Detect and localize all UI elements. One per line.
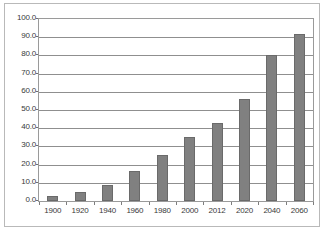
y-axis-tick-label: 100.0 xyxy=(17,14,36,22)
x-axis-tick-label: 2000 xyxy=(176,206,203,215)
bar[interactable] xyxy=(75,192,86,201)
x-axis-tick-label: 1940 xyxy=(94,206,121,215)
x-axis-tick-label: 2012 xyxy=(203,206,230,215)
bar[interactable] xyxy=(184,137,195,201)
x-axis-tick-mark xyxy=(176,202,177,205)
bar[interactable] xyxy=(239,99,250,201)
bar-slot xyxy=(176,19,203,201)
bar-slot xyxy=(121,19,148,201)
x-axis-tick-mark xyxy=(66,202,67,205)
x-axis-tick-mark xyxy=(231,202,232,205)
bar[interactable] xyxy=(212,123,223,201)
x-axis-tick-label: 2020 xyxy=(231,206,258,215)
y-axis-tick-label: 50.0 xyxy=(21,105,36,113)
bar-slot xyxy=(258,19,285,201)
x-axis: 1900192019401960198020002012202020402060 xyxy=(39,204,313,218)
y-axis: 100.090.080.070.060.050.040.030.020.010.… xyxy=(5,18,36,202)
bar[interactable] xyxy=(157,155,168,201)
x-axis-tick-label: 1960 xyxy=(121,206,148,215)
bar-slot xyxy=(66,19,93,201)
bar-slot xyxy=(203,19,230,201)
y-axis-tick-label: 70.0 xyxy=(21,69,36,77)
x-axis-tick-mark xyxy=(94,202,95,205)
bar-slot xyxy=(39,19,66,201)
x-axis-tick-mark xyxy=(313,202,314,205)
y-axis-tick-label: 20.0 xyxy=(21,160,36,168)
bar-slot xyxy=(231,19,258,201)
bars-layer xyxy=(39,19,313,201)
x-axis-tick-mark xyxy=(203,202,204,205)
y-axis-tick-label: 30.0 xyxy=(21,141,36,149)
y-axis-tick-label: 90.0 xyxy=(21,32,36,40)
y-axis-tick-label: 40.0 xyxy=(21,123,36,131)
bar-slot xyxy=(286,19,313,201)
y-axis-tick-label: 10.0 xyxy=(21,178,36,186)
x-axis-tick-mark xyxy=(121,202,122,205)
x-axis-tick-mark xyxy=(149,202,150,205)
bar-slot xyxy=(149,19,176,201)
bar-slot xyxy=(94,19,121,201)
bar[interactable] xyxy=(266,55,277,201)
x-axis-tick-label: 1900 xyxy=(39,206,66,215)
x-axis-tick-mark xyxy=(39,202,40,205)
chart-frame: 100.090.080.070.060.050.040.030.020.010.… xyxy=(4,3,320,227)
bar-chart: 100.090.080.070.060.050.040.030.020.010.… xyxy=(5,4,321,228)
x-axis-tick-label: 1920 xyxy=(66,206,93,215)
bar[interactable] xyxy=(129,171,140,201)
bar[interactable] xyxy=(294,34,305,201)
x-axis-tick-mark xyxy=(258,202,259,205)
bar[interactable] xyxy=(102,185,113,201)
y-axis-tick-label: 60.0 xyxy=(21,87,36,95)
x-axis-tick-label: 2040 xyxy=(258,206,285,215)
x-axis-tick-mark xyxy=(286,202,287,205)
x-axis-tick-label: 1980 xyxy=(149,206,176,215)
x-axis-tick-label: 2060 xyxy=(286,206,313,215)
y-axis-tick-label: 80.0 xyxy=(21,50,36,58)
y-axis-tick-label: 0.0 xyxy=(25,196,36,204)
bar[interactable] xyxy=(47,196,58,201)
